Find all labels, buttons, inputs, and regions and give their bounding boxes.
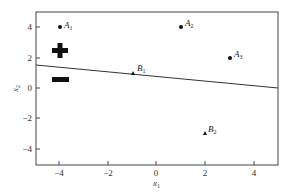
x-tick-label: 0: [154, 168, 159, 178]
minus-icon: [52, 77, 69, 82]
x-axis-label: x1: [152, 178, 160, 189]
x-axis-ticks: [59, 161, 254, 165]
x-tick-label: 4: [252, 168, 257, 178]
y-axis-label: x2: [10, 85, 21, 93]
point-b1: [131, 71, 135, 75]
y-tick-label: 0: [28, 83, 33, 93]
decision-boundary-line: [36, 65, 278, 88]
x-tick-label: −4: [54, 168, 64, 178]
point-a3: [228, 56, 232, 60]
y-axis-ticks: [36, 27, 40, 149]
y-tick-label: −4: [22, 144, 32, 154]
point-label: B1: [137, 63, 146, 74]
point-a2: [179, 25, 183, 29]
x-tick-label: 2: [203, 168, 208, 178]
x-tick-label: −2: [103, 168, 113, 178]
point-label: A2: [184, 18, 194, 29]
point-b2: [203, 131, 207, 135]
y-tick-label: 4: [28, 22, 33, 32]
point-a1: [58, 25, 62, 29]
chart: −4 −2 0 2 4 4 2 0 −2 −4 x1 x2 A1 A2 A3 B…: [0, 0, 286, 195]
y-tick-label: −2: [22, 113, 32, 123]
point-label: B2: [208, 124, 217, 135]
point-label: A1: [63, 20, 73, 31]
point-label: A3: [233, 49, 243, 60]
plus-icon: [52, 43, 68, 58]
y-tick-label: 2: [28, 53, 33, 63]
plot-frame: [36, 12, 278, 165]
